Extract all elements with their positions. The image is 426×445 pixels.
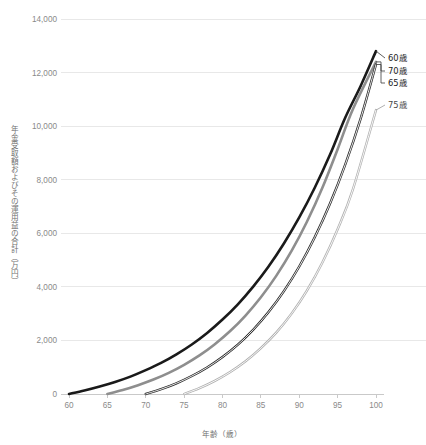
y-tick-label: 12,000 bbox=[32, 69, 57, 78]
legend-leader-60歳 bbox=[376, 51, 385, 58]
y-tick-label: 0 bbox=[52, 390, 57, 399]
pension-growth-chart: 02,0004,0006,0008,00010,00012,00014,000 … bbox=[0, 0, 426, 445]
x-tick-label: 65 bbox=[103, 401, 113, 410]
series-line-fill-75歳 bbox=[184, 110, 376, 394]
y-tick-label: 6,000 bbox=[37, 229, 58, 238]
legend-label-65歳[interactable]: 65歳 bbox=[388, 78, 408, 88]
y-tick-label: 14,000 bbox=[32, 15, 57, 24]
series-line-fill-70歳 bbox=[146, 65, 376, 394]
x-tick-label: 70 bbox=[141, 401, 151, 410]
x-tick-label: 95 bbox=[333, 401, 343, 410]
y-tick-label: 10,000 bbox=[32, 122, 57, 131]
legend-label-70歳[interactable]: 70歳 bbox=[388, 66, 408, 76]
gridlines-group bbox=[61, 19, 426, 340]
series-line-70歳 bbox=[146, 65, 376, 394]
y-tick-label: 2,000 bbox=[37, 336, 58, 345]
x-tick-label: 100 bbox=[369, 401, 383, 410]
x-axis-title: 年齢（歳） bbox=[202, 429, 242, 439]
y-axis-title: 年金受取額およびその運用益の合計（万円） bbox=[10, 124, 19, 285]
legend-label-60歳[interactable]: 60歳 bbox=[388, 53, 408, 63]
legend-leader-70歳 bbox=[376, 65, 385, 72]
legend-group: 60歳70歳65歳75歳 bbox=[376, 51, 408, 110]
legend-label-75歳[interactable]: 75歳 bbox=[388, 100, 408, 110]
series-group bbox=[69, 51, 376, 394]
y-tick-label: 8,000 bbox=[37, 176, 58, 185]
x-tick-label: 75 bbox=[180, 401, 190, 410]
series-line-75歳 bbox=[184, 110, 376, 394]
x-tick-label: 80 bbox=[218, 401, 228, 410]
series-line-60歳 bbox=[69, 51, 376, 394]
legend-leader-75歳 bbox=[376, 105, 385, 110]
y-tick-labels-group: 02,0004,0006,0008,00010,00012,00014,000 bbox=[32, 15, 57, 399]
x-tick-label: 60 bbox=[64, 401, 74, 410]
series-line-65歳 bbox=[107, 62, 376, 394]
x-tick-label: 90 bbox=[295, 401, 305, 410]
y-tick-label: 4,000 bbox=[37, 283, 58, 292]
chart-canvas: 02,0004,0006,0008,00010,00012,00014,000 … bbox=[0, 0, 426, 445]
x-axis-group: 6065707580859095100 bbox=[61, 394, 384, 410]
x-tick-label: 85 bbox=[256, 401, 266, 410]
